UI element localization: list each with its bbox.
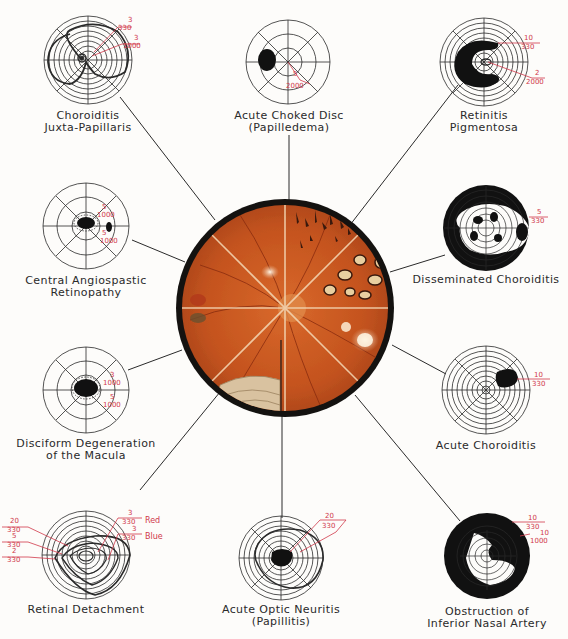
svg-text:5: 5: [537, 208, 541, 216]
diagram-stage: 3 330 3 1000 5 2000 10 330 2 2000 5 1000: [0, 0, 568, 639]
svg-text:3: 3: [132, 525, 136, 533]
svg-text:330: 330: [521, 43, 534, 51]
svg-text:1000: 1000: [103, 401, 121, 409]
label-line: (Papilledema): [234, 122, 344, 134]
field-chart-retinitis-pigmentosa: [440, 18, 528, 106]
label-line: (Papillitis): [222, 616, 340, 628]
svg-text:5: 5: [102, 203, 106, 211]
svg-text:5: 5: [12, 532, 16, 540]
label-choroiditis-juxta-papillaris: Choroiditis Juxta-Papillaris: [44, 110, 131, 134]
svg-text:3: 3: [134, 34, 138, 42]
label-central-angiospastic-retinopathy: Central Angiospastic Retinopathy: [25, 275, 146, 299]
svg-text:10: 10: [528, 514, 537, 522]
svg-text:10: 10: [524, 34, 533, 42]
label-line: Inferior Nasal Artery: [427, 618, 547, 630]
svg-text:Red: Red: [145, 516, 160, 525]
field-chart-acute-choroiditis: [442, 346, 530, 434]
field-chart-disciform-degeneration: [43, 347, 129, 433]
field-chart-obstruction-inferior-nasal-artery: [444, 513, 530, 599]
svg-text:5: 5: [102, 229, 106, 237]
svg-text:1000: 1000: [100, 237, 118, 245]
svg-text:330: 330: [532, 380, 545, 388]
label-retinal-detachment: Retinal Detachment: [28, 604, 145, 616]
svg-text:3: 3: [110, 371, 114, 379]
field-chart-central-angiospastic-retinopathy: [43, 183, 129, 269]
label-line: Pigmentosa: [450, 122, 518, 134]
label-retinitis-pigmentosa: Retinitis Pigmentosa: [450, 110, 518, 134]
label-acute-choked-disc: Acute Choked Disc (Papilledema): [234, 110, 344, 134]
svg-text:5: 5: [293, 70, 297, 78]
svg-text:Blue: Blue: [145, 532, 163, 541]
svg-text:330: 330: [526, 523, 539, 531]
field-chart-retinal-detachment: [42, 511, 130, 599]
svg-text:1000: 1000: [123, 42, 141, 50]
label-obstruction-inferior-nasal-artery: Obstruction of Inferior Nasal Artery: [427, 606, 547, 630]
svg-text:20: 20: [325, 512, 334, 520]
label-line: Retinal Detachment: [28, 604, 145, 616]
label-line: Juxta-Papillaris: [44, 122, 131, 134]
svg-text:1000: 1000: [103, 379, 121, 387]
svg-text:5: 5: [110, 393, 114, 401]
field-chart-acute-optic-neuritis: [239, 516, 323, 600]
label-line: of the Macula: [16, 450, 155, 462]
svg-text:10: 10: [540, 529, 549, 537]
label-acute-choroiditis: Acute Choroiditis: [436, 440, 536, 452]
svg-text:330: 330: [118, 24, 131, 32]
diagram-canvas: 3 330 3 1000 5 2000 10 330 2 2000 5 1000: [0, 0, 568, 639]
label-disseminated-choroiditis: Disseminated Choroiditis: [413, 274, 560, 286]
svg-text:330: 330: [122, 534, 135, 542]
svg-text:3: 3: [128, 509, 132, 517]
fundus-composite-image: [176, 199, 394, 417]
svg-text:330: 330: [531, 217, 544, 225]
svg-text:10: 10: [534, 371, 543, 379]
label-line: Acute Choroiditis: [436, 440, 536, 452]
svg-text:1000: 1000: [97, 211, 115, 219]
svg-text:2000: 2000: [286, 82, 304, 90]
svg-text:2: 2: [12, 547, 16, 555]
label-acute-optic-neuritis: Acute Optic Neuritis (Papillitis): [222, 604, 340, 628]
label-disciform-degeneration: Disciform Degeneration of the Macula: [16, 438, 155, 462]
field-chart-disseminated-choroiditis: [443, 185, 530, 271]
svg-text:330: 330: [7, 556, 20, 564]
svg-text:330: 330: [322, 522, 335, 530]
svg-text:2: 2: [535, 69, 539, 77]
label-line: Retinopathy: [25, 287, 146, 299]
svg-text:1000: 1000: [530, 537, 548, 545]
annotation-fraction: 3: [128, 16, 132, 24]
svg-text:2000: 2000: [526, 78, 544, 86]
svg-text:20: 20: [10, 517, 19, 525]
label-line: Disseminated Choroiditis: [413, 274, 560, 286]
